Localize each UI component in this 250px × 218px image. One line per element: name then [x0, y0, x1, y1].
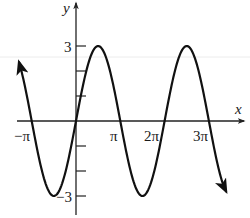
x-tick-label-3pi: 3π	[193, 128, 209, 144]
x-tick-label-pi: π	[110, 128, 118, 144]
x-tick-label-neg-pi: −π	[14, 128, 30, 144]
x-axis-label: x	[234, 101, 242, 117]
x-tick-label-2pi: 2π	[144, 128, 160, 144]
sine-graph: y x 3 −3 −π π 2π 3π	[0, 0, 250, 218]
y-axis-label: y	[61, 0, 70, 16]
y-tick-label-3: 3	[64, 39, 72, 55]
y-tick-label-neg3: −3	[56, 189, 72, 205]
